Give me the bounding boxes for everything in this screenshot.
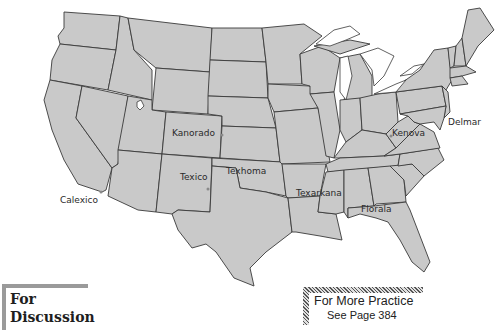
state-new-mexico — [156, 154, 212, 214]
label-kanorado: Kanorado — [172, 128, 215, 138]
state-kansas — [220, 126, 280, 162]
label-texhoma: Texhoma — [226, 166, 266, 176]
state-maine — [462, 8, 494, 66]
label-texico: Texico — [180, 172, 208, 182]
state-washington — [58, 12, 120, 50]
label-delmar: Delmar — [448, 117, 481, 127]
label-calexico: Calexico — [60, 195, 98, 205]
practice-hatch-left — [303, 287, 309, 325]
discussion-line1: For — [10, 291, 36, 307]
practice-hatch-top — [303, 287, 423, 293]
state-south-dakota — [208, 60, 268, 98]
state-north-dakota — [210, 28, 266, 62]
discussion-bar-left — [2, 284, 6, 330]
state-massachusetts — [450, 66, 476, 78]
state-wyoming — [152, 68, 210, 114]
for-more-practice-box: For More Practice See Page 384 — [303, 287, 427, 325]
label-kenova: Kenova — [392, 128, 425, 138]
label-florala: Florala — [361, 204, 391, 214]
dot-calexico — [100, 191, 103, 194]
discussion-line2: Discussion — [10, 309, 95, 325]
discussion-bar-top — [2, 284, 88, 288]
label-texarkana: Texarkana — [296, 188, 342, 198]
dot-texico — [207, 188, 210, 191]
practice-title: For More Practice — [314, 294, 413, 308]
state-new-york — [396, 48, 452, 92]
for-discussion-box: For Discussion — [2, 284, 88, 330]
dot-kanorado — [221, 134, 224, 137]
practice-subtitle: See Page 384 — [327, 309, 397, 321]
state-connecticut-ri — [450, 76, 468, 86]
